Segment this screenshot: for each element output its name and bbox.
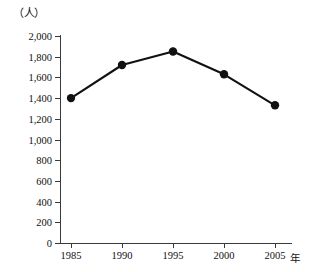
data-point-marker <box>271 101 279 109</box>
line-chart: （人） 02004006008001,0001,2001,4001,6001,8… <box>0 0 311 272</box>
data-point-marker <box>169 47 177 55</box>
series-line <box>71 52 275 106</box>
data-point-marker <box>67 94 75 102</box>
data-series-layer <box>0 0 311 272</box>
data-point-marker <box>220 70 228 78</box>
data-point-marker <box>118 61 126 69</box>
